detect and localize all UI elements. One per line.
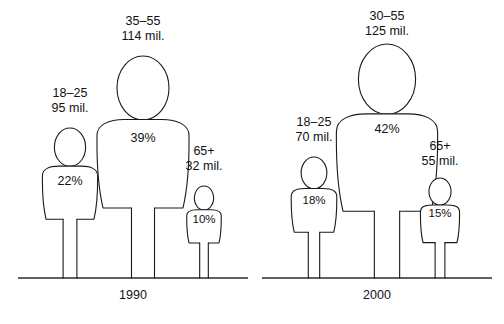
population-label: 125 mil. [365,24,409,39]
figure-head [358,44,415,114]
percent-label: 10% [192,212,215,226]
percent-label: 22% [57,174,82,189]
figure-head [194,186,214,210]
figure-legs [374,211,399,278]
figure-legs [308,232,319,278]
figure-caption: 18–2570 mil. [296,115,333,146]
population-label: 32 mil. [186,159,223,174]
age-range-label: 65+ [429,139,450,153]
figure-legs [63,219,77,278]
figure-caption: 65+32 mil. [186,144,223,175]
figure-1990-65+ [187,186,222,278]
population-label: 114 mil. [122,29,165,44]
figure-caption: 35–55114 mil. [122,14,165,45]
percent-label: 39% [130,131,155,146]
percent-label: 18% [302,193,325,207]
age-range-label: 30–55 [370,9,405,23]
figure-1990-35–55 [97,56,189,278]
percent-label: 15% [428,206,451,220]
figure-1990-18–25 [42,128,97,278]
population-label: 95 mil. [52,101,89,116]
age-range-label: 35–55 [126,14,161,28]
figure-caption: 30–55125 mil. [365,9,409,40]
population-label: 55 mil. [422,154,459,169]
age-range-label: 65+ [193,144,214,158]
figure-head [117,56,169,120]
figure-head [54,128,85,166]
age-range-label: 18–25 [297,115,332,129]
figure-head [429,178,451,205]
figure-caption: 18–2595 mil. [52,86,89,117]
figure-head [301,157,327,189]
figure-legs [435,243,445,278]
figure-caption: 65+55 mil. [422,139,459,170]
population-pictogram-chart: 18–2595 mil.22%35–55114 mil.39%65+32 mil… [0,0,504,324]
figure-2000-18–25 [291,157,337,278]
figure-legs [200,243,209,278]
group-year-label: 2000 [363,288,391,303]
group-year-label: 1990 [119,288,147,303]
age-range-label: 18–25 [53,86,88,100]
population-label: 70 mil. [296,130,333,145]
figure-legs [132,208,155,278]
percent-label: 42% [374,122,399,137]
